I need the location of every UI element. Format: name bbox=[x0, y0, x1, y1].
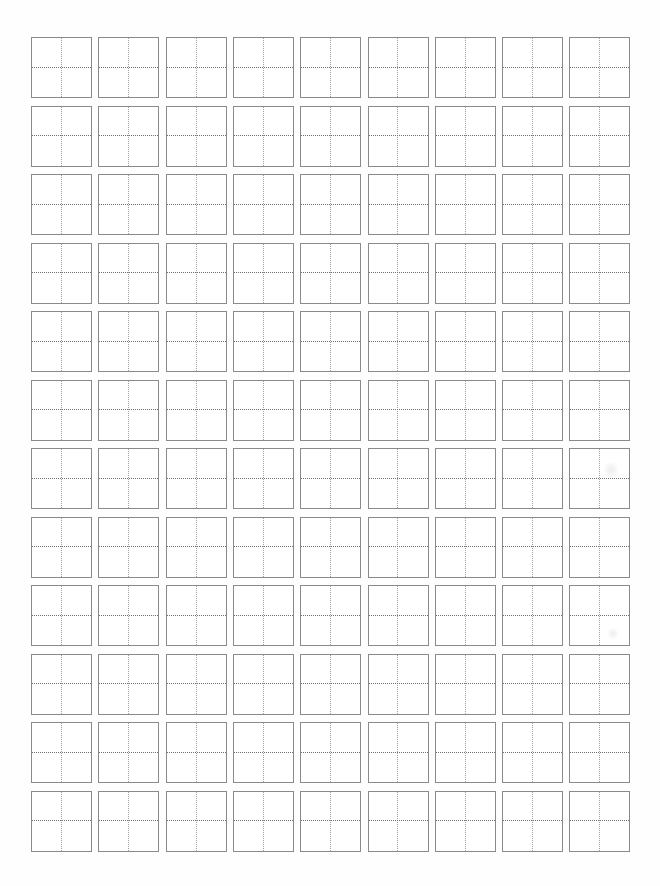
practice-grid-cell[interactable] bbox=[166, 106, 227, 167]
practice-grid-cell[interactable] bbox=[31, 174, 92, 235]
practice-grid-cell[interactable] bbox=[300, 517, 361, 578]
practice-grid-cell[interactable] bbox=[502, 37, 563, 98]
practice-grid-cell[interactable] bbox=[300, 37, 361, 98]
practice-grid-cell[interactable] bbox=[502, 243, 563, 304]
practice-grid-cell[interactable] bbox=[31, 243, 92, 304]
practice-grid-cell[interactable] bbox=[300, 654, 361, 715]
practice-grid-cell[interactable] bbox=[435, 380, 496, 441]
practice-grid-cell[interactable] bbox=[368, 722, 429, 783]
practice-grid-cell[interactable] bbox=[31, 37, 92, 98]
practice-grid-cell[interactable] bbox=[166, 448, 227, 509]
practice-grid-cell[interactable] bbox=[31, 380, 92, 441]
practice-grid-cell[interactable] bbox=[435, 654, 496, 715]
practice-grid-cell[interactable] bbox=[98, 722, 159, 783]
practice-grid-cell[interactable] bbox=[98, 37, 159, 98]
practice-grid-cell[interactable] bbox=[300, 174, 361, 235]
practice-grid-cell[interactable] bbox=[502, 722, 563, 783]
practice-grid-cell[interactable] bbox=[502, 380, 563, 441]
practice-grid-cell[interactable] bbox=[98, 174, 159, 235]
practice-grid-cell[interactable] bbox=[569, 380, 630, 441]
practice-grid-cell[interactable] bbox=[98, 517, 159, 578]
practice-grid-cell[interactable] bbox=[502, 517, 563, 578]
practice-grid-cell[interactable] bbox=[31, 106, 92, 167]
practice-grid-cell[interactable] bbox=[569, 791, 630, 852]
practice-grid-cell[interactable] bbox=[98, 106, 159, 167]
practice-grid-cell[interactable] bbox=[368, 243, 429, 304]
practice-grid-cell[interactable] bbox=[31, 448, 92, 509]
practice-grid-cell[interactable] bbox=[435, 37, 496, 98]
practice-grid-cell[interactable] bbox=[300, 448, 361, 509]
practice-grid-cell[interactable] bbox=[569, 174, 630, 235]
practice-grid-cell[interactable] bbox=[233, 37, 294, 98]
practice-grid-cell[interactable] bbox=[569, 517, 630, 578]
practice-grid-cell[interactable] bbox=[166, 311, 227, 372]
practice-grid-cell[interactable] bbox=[435, 791, 496, 852]
practice-grid-cell[interactable] bbox=[569, 106, 630, 167]
practice-grid-cell[interactable] bbox=[300, 311, 361, 372]
practice-grid-cell[interactable] bbox=[569, 722, 630, 783]
practice-grid-cell[interactable] bbox=[569, 448, 630, 509]
practice-grid-cell[interactable] bbox=[300, 243, 361, 304]
practice-grid-cell[interactable] bbox=[166, 722, 227, 783]
practice-grid-cell[interactable] bbox=[300, 585, 361, 646]
practice-grid-cell[interactable] bbox=[233, 517, 294, 578]
practice-grid-cell[interactable] bbox=[435, 106, 496, 167]
practice-grid-cell[interactable] bbox=[569, 37, 630, 98]
practice-grid-cell[interactable] bbox=[31, 517, 92, 578]
practice-grid-cell[interactable] bbox=[368, 380, 429, 441]
practice-grid-cell[interactable] bbox=[435, 722, 496, 783]
practice-grid-cell[interactable] bbox=[569, 585, 630, 646]
practice-grid-cell[interactable] bbox=[368, 311, 429, 372]
practice-grid-cell[interactable] bbox=[233, 311, 294, 372]
practice-grid-cell[interactable] bbox=[569, 654, 630, 715]
practice-grid-cell[interactable] bbox=[569, 243, 630, 304]
practice-grid-cell[interactable] bbox=[435, 585, 496, 646]
practice-grid-cell[interactable] bbox=[233, 448, 294, 509]
practice-grid-cell[interactable] bbox=[166, 174, 227, 235]
practice-grid-cell[interactable] bbox=[368, 654, 429, 715]
practice-grid-cell[interactable] bbox=[502, 106, 563, 167]
practice-grid-cell[interactable] bbox=[98, 380, 159, 441]
practice-grid-cell[interactable] bbox=[233, 380, 294, 441]
practice-grid-cell[interactable] bbox=[233, 585, 294, 646]
practice-grid-cell[interactable] bbox=[502, 791, 563, 852]
practice-grid-cell[interactable] bbox=[502, 311, 563, 372]
practice-grid-cell[interactable] bbox=[300, 106, 361, 167]
practice-grid-cell[interactable] bbox=[233, 106, 294, 167]
practice-grid-cell[interactable] bbox=[166, 654, 227, 715]
practice-grid-cell[interactable] bbox=[98, 791, 159, 852]
practice-grid-cell[interactable] bbox=[31, 722, 92, 783]
practice-grid-cell[interactable] bbox=[502, 174, 563, 235]
practice-grid-cell[interactable] bbox=[300, 722, 361, 783]
practice-grid-cell[interactable] bbox=[233, 654, 294, 715]
practice-grid-cell[interactable] bbox=[233, 791, 294, 852]
practice-grid-cell[interactable] bbox=[31, 791, 92, 852]
practice-grid-cell[interactable] bbox=[502, 585, 563, 646]
practice-grid-cell[interactable] bbox=[300, 791, 361, 852]
practice-grid-cell[interactable] bbox=[368, 791, 429, 852]
practice-grid-cell[interactable] bbox=[368, 517, 429, 578]
practice-grid-cell[interactable] bbox=[435, 243, 496, 304]
practice-grid-cell[interactable] bbox=[98, 311, 159, 372]
practice-grid-cell[interactable] bbox=[368, 106, 429, 167]
practice-grid-cell[interactable] bbox=[98, 243, 159, 304]
practice-grid-cell[interactable] bbox=[98, 585, 159, 646]
practice-grid-cell[interactable] bbox=[435, 174, 496, 235]
practice-grid-cell[interactable] bbox=[166, 517, 227, 578]
practice-grid-cell[interactable] bbox=[435, 448, 496, 509]
practice-grid-cell[interactable] bbox=[502, 654, 563, 715]
practice-grid-cell[interactable] bbox=[368, 585, 429, 646]
practice-grid-cell[interactable] bbox=[569, 311, 630, 372]
practice-grid-cell[interactable] bbox=[368, 448, 429, 509]
practice-grid-cell[interactable] bbox=[233, 722, 294, 783]
practice-grid-cell[interactable] bbox=[300, 380, 361, 441]
practice-grid-cell[interactable] bbox=[166, 243, 227, 304]
practice-grid-cell[interactable] bbox=[502, 448, 563, 509]
practice-grid-cell[interactable] bbox=[31, 585, 92, 646]
practice-grid-cell[interactable] bbox=[166, 585, 227, 646]
practice-grid-cell[interactable] bbox=[368, 37, 429, 98]
practice-grid-cell[interactable] bbox=[166, 380, 227, 441]
practice-grid-cell[interactable] bbox=[98, 654, 159, 715]
practice-grid-cell[interactable] bbox=[368, 174, 429, 235]
practice-grid-cell[interactable] bbox=[435, 311, 496, 372]
